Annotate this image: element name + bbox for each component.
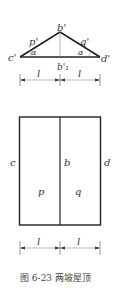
plan-dim-right-label: l: [77, 236, 80, 247]
base-mid-label: b'₁: [57, 62, 69, 72]
right-angle-label: α: [78, 48, 84, 57]
elevation-view: b' c' d' p' q' α α b'₁ l l: [8, 22, 110, 86]
left-slope-label: p': [29, 36, 38, 47]
ridge-label: b: [64, 157, 70, 168]
apex-label: b': [57, 22, 66, 33]
plan-view: c b d p q l l: [10, 117, 110, 255]
two-slope-roof-diagram: b' c' d' p' q' α α b'₁ l l c b d p q: [0, 0, 133, 304]
left-point-label: c': [8, 52, 16, 63]
dim-right-label: l: [78, 68, 81, 79]
right-edge-label: d: [104, 157, 110, 168]
right-slope-label: q': [80, 36, 89, 47]
left-edge-label: c: [10, 157, 16, 168]
figure-caption: 图 6-23 两坡屋顶: [20, 272, 91, 283]
left-angle-label: α: [31, 48, 37, 57]
right-point-label: d': [101, 53, 110, 64]
plan-dim-left-label: l: [37, 236, 40, 247]
right-angle-arc: [89, 52, 91, 58]
right-face-label: q: [75, 186, 81, 197]
left-slope-line: [20, 32, 60, 57]
dim-left-label: l: [37, 68, 40, 79]
left-face-label: p: [38, 186, 45, 197]
plan-dimension: l l: [20, 236, 100, 255]
